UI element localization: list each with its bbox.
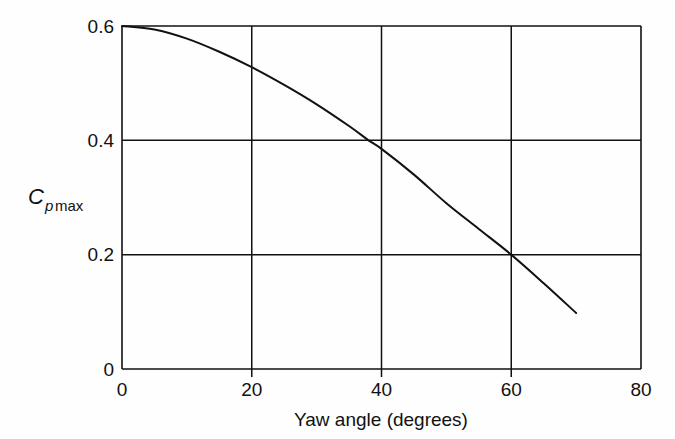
- xtick-label-0: 0: [117, 379, 128, 400]
- yaxis-title-sub-p: p: [44, 197, 53, 214]
- yaxis-title-sub-max: max: [55, 197, 84, 214]
- gridlines-vertical: [252, 26, 512, 369]
- chart-figure: 0.6 0.4 0.2 0 0 20 40 60 80 Yaw angle (d…: [0, 0, 675, 439]
- xtick-label-20: 20: [241, 379, 262, 400]
- ytick-label-0: 0: [103, 359, 114, 380]
- xtick-label-60: 60: [501, 379, 522, 400]
- ytick-label-0.2: 0.2: [88, 244, 114, 265]
- chart-canvas: 0.6 0.4 0.2 0 0 20 40 60 80 Yaw angle (d…: [0, 0, 675, 439]
- yaxis-title: C p max: [28, 184, 84, 214]
- yaxis-tick-labels: 0.6 0.4 0.2 0: [88, 16, 115, 380]
- ytick-label-0.4: 0.4: [88, 130, 115, 151]
- xaxis-title: Yaw angle (degrees): [294, 409, 468, 430]
- xaxis-tick-marks: [252, 369, 512, 377]
- ytick-label-0.6: 0.6: [88, 16, 114, 37]
- data-curve-cpmax: [122, 26, 576, 313]
- xaxis-tick-labels: 0 20 40 60 80: [117, 379, 652, 400]
- xtick-label-40: 40: [371, 379, 392, 400]
- yaxis-title-main: C: [28, 184, 44, 209]
- xtick-label-80: 80: [630, 379, 651, 400]
